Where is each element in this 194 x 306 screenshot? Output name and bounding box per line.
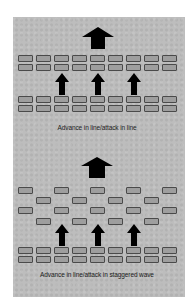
unit-brick [54, 256, 69, 263]
unit-brick [36, 55, 51, 62]
unit-brick [90, 105, 105, 112]
unit-brick [72, 256, 87, 263]
unit-brick [72, 247, 87, 254]
unit-brick [90, 64, 105, 71]
unit-brick [36, 96, 51, 103]
unit-brick [144, 64, 159, 71]
unit-brick [108, 247, 123, 254]
unit-brick [144, 247, 159, 254]
unit-brick [90, 256, 105, 263]
unit-brick [18, 187, 33, 194]
unit-brick [162, 96, 177, 103]
unit-brick [126, 55, 141, 62]
unit-brick [18, 105, 33, 112]
unit-brick [54, 207, 69, 214]
unit-brick [36, 218, 51, 225]
unit-brick [54, 105, 69, 112]
unit-brick [54, 247, 69, 254]
small-arrow-up-icon [55, 224, 69, 246]
unit-brick [162, 247, 177, 254]
large-arrow-up-icon [82, 27, 114, 49]
unit-brick [108, 256, 123, 263]
unit-brick [108, 96, 123, 103]
unit-brick [144, 218, 159, 225]
unit-brick [126, 105, 141, 112]
unit-brick [90, 207, 105, 214]
unit-brick [18, 256, 33, 263]
unit-brick [18, 64, 33, 71]
small-arrow-up-icon [91, 224, 105, 246]
unit-brick [54, 64, 69, 71]
unit-brick [126, 256, 141, 263]
unit-brick [126, 64, 141, 71]
unit-brick [144, 197, 159, 204]
unit-brick [162, 207, 177, 214]
unit-brick [108, 105, 123, 112]
unit-brick [54, 187, 69, 194]
unit-brick [144, 55, 159, 62]
unit-brick [72, 96, 87, 103]
unit-brick [72, 105, 87, 112]
large-arrow-up-icon [81, 157, 113, 178]
unit-brick [36, 64, 51, 71]
unit-brick [126, 96, 141, 103]
unit-brick [36, 105, 51, 112]
unit-brick [108, 55, 123, 62]
unit-brick [90, 247, 105, 254]
unit-brick [90, 187, 105, 194]
unit-brick [72, 197, 87, 204]
diagram-caption: Advance in line/attack in line [0, 124, 194, 131]
unit-brick [108, 64, 123, 71]
unit-brick [90, 96, 105, 103]
unit-brick [72, 218, 87, 225]
unit-brick [72, 64, 87, 71]
unit-brick [36, 197, 51, 204]
unit-brick [162, 55, 177, 62]
unit-brick [90, 55, 105, 62]
unit-brick [72, 55, 87, 62]
diagram-caption: Advance in line/attack in staggered wave [0, 271, 194, 278]
small-arrow-up-icon [55, 73, 69, 95]
unit-brick [18, 247, 33, 254]
unit-brick [162, 105, 177, 112]
unit-brick [126, 207, 141, 214]
unit-brick [18, 96, 33, 103]
unit-brick [108, 218, 123, 225]
unit-brick [144, 96, 159, 103]
unit-brick [144, 256, 159, 263]
unit-brick [126, 247, 141, 254]
small-arrow-up-icon [127, 224, 141, 246]
unit-brick [36, 256, 51, 263]
small-arrow-up-icon [91, 73, 105, 95]
unit-brick [144, 105, 159, 112]
unit-brick [162, 187, 177, 194]
unit-brick [162, 64, 177, 71]
unit-brick [54, 96, 69, 103]
unit-brick [162, 256, 177, 263]
unit-brick [18, 55, 33, 62]
small-arrow-up-icon [127, 73, 141, 95]
unit-brick [54, 55, 69, 62]
unit-brick [18, 207, 33, 214]
unit-brick [36, 247, 51, 254]
unit-brick [126, 187, 141, 194]
unit-brick [108, 197, 123, 204]
